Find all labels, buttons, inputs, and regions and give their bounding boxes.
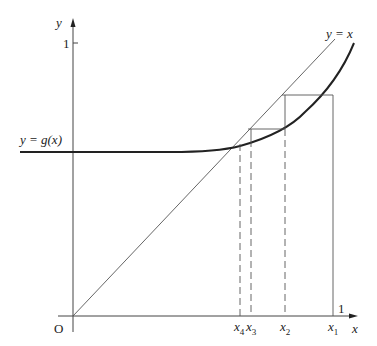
x1-label: x1 <box>328 320 338 337</box>
identity-line <box>73 39 335 316</box>
y-axis-arrow-icon <box>71 18 76 27</box>
x-tick-label-one: 1 <box>338 302 345 315</box>
y-axis-label: y <box>56 16 62 29</box>
identity-line-label: y = x <box>326 27 353 40</box>
function-curve <box>20 43 354 152</box>
origin-label: O <box>54 322 63 335</box>
x2-label: x2 <box>280 320 290 337</box>
x-axis-arrow-icon <box>349 314 358 319</box>
x4-label: x4 <box>234 320 244 337</box>
cobweb-path <box>248 95 333 316</box>
dashed-projections <box>240 129 285 316</box>
function-curve-label: y = g(x) <box>20 133 62 146</box>
y-tick-label-one: 1 <box>63 37 70 50</box>
x3-label: x3 <box>246 320 256 337</box>
x-axis-label: x <box>352 322 358 335</box>
diagram-canvas <box>0 0 377 346</box>
cobweb-diagram: y 1 y = x y = g(x) O 1 x x4 x3 x2 x1 <box>0 0 377 346</box>
